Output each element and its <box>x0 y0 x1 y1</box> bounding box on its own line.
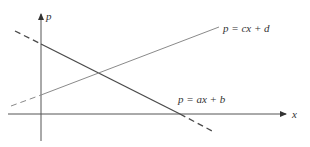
diagram-canvas: p x p = cx + d p = ax + b <box>0 0 310 147</box>
line-cx-d-label: p = cx + d <box>222 22 270 34</box>
line-cx-d-dashed-left <box>11 95 41 106</box>
line-ax-b-label: p = ax + b <box>177 93 226 105</box>
x-axis-label: x <box>291 108 297 120</box>
line-cx-d <box>41 27 219 95</box>
p-axis-label: p <box>45 10 52 22</box>
line-ax-b <box>41 44 180 114</box>
line-ax-b-dashed-left <box>15 31 41 44</box>
line-ax-b-dashed-right <box>180 114 214 132</box>
